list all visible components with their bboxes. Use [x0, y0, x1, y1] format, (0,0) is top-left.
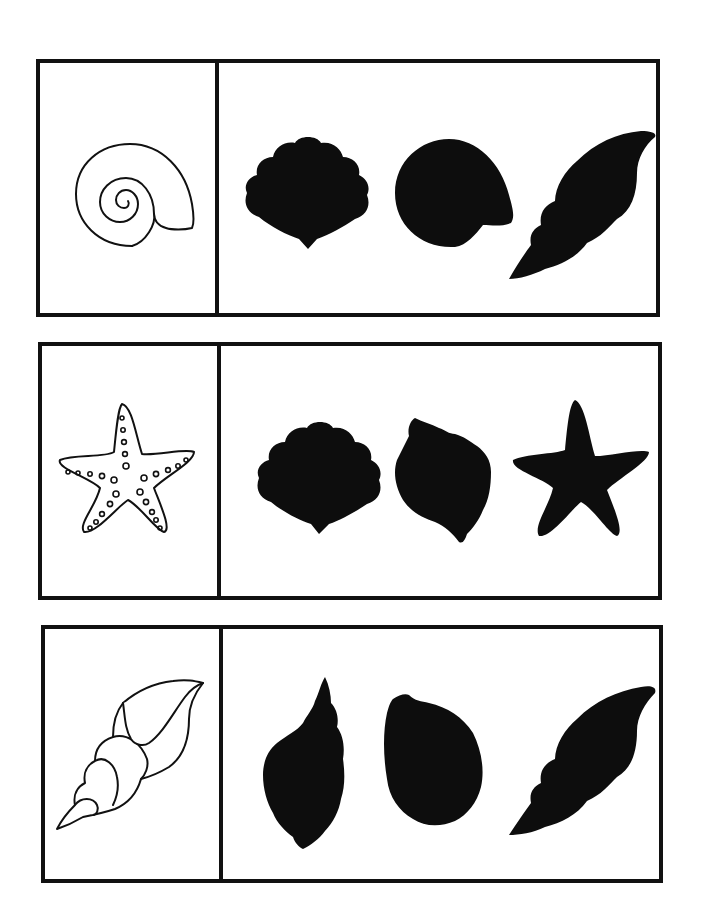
- options-cell: spindle shell shadow teardrop shell shad…: [223, 629, 659, 879]
- prompt-label: conch shell: [45, 629, 46, 630]
- conch-shell-outline-icon[interactable]: [53, 669, 213, 829]
- prompt-cell: conch shell: [45, 629, 223, 879]
- spindle-shell-silhouette-icon[interactable]: [259, 673, 359, 853]
- prompt-cell: dotted starfish: [42, 346, 221, 596]
- starfish-outline-icon[interactable]: [56, 396, 206, 546]
- conch-shell-silhouette-icon[interactable]: [505, 683, 665, 843]
- options-cell: scallop shell shadow snail shell shadow …: [219, 63, 656, 313]
- match-row-3: conch shell spindle shell shadow teardro…: [41, 625, 663, 883]
- match-row-2: dotted starfish scallop shell shadow whe…: [38, 342, 662, 600]
- prompt-cell: spiral snail shell: [40, 63, 219, 313]
- options-cell: scallop shell shadow whelk shell shadow …: [221, 346, 658, 596]
- match-row-1: spiral snail shell scallop shell shadow …: [36, 59, 660, 317]
- starfish-silhouette-icon[interactable]: [511, 396, 661, 546]
- cowrie-shell-silhouette-icon[interactable]: [381, 693, 491, 833]
- snail-shell-silhouette-icon[interactable]: [385, 129, 525, 259]
- scallop-shell-silhouette-icon[interactable]: [243, 129, 373, 259]
- prompt-label: spiral snail shell: [40, 63, 41, 64]
- scallop-shell-silhouette-icon[interactable]: [257, 412, 387, 542]
- whelk-shell-silhouette-icon[interactable]: [393, 416, 503, 546]
- snail-shell-spiral-icon[interactable]: [68, 134, 198, 264]
- conch-shell-silhouette-icon[interactable]: [505, 125, 665, 285]
- prompt-label: dotted starfish: [42, 346, 43, 347]
